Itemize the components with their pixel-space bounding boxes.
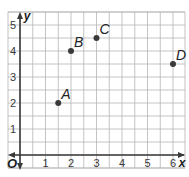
point-label-c: C bbox=[100, 21, 111, 37]
data-points: ABCD bbox=[55, 21, 186, 106]
x-tick-label: 6 bbox=[170, 157, 176, 169]
y-tick-label: 4 bbox=[10, 45, 16, 57]
x-tick-label: 4 bbox=[119, 157, 125, 169]
y-tick-label: 5 bbox=[10, 19, 16, 31]
origin-label: O bbox=[7, 156, 17, 171]
y-axis-arrow-icon bbox=[17, 12, 23, 19]
x-tick-label: 5 bbox=[144, 157, 150, 169]
coordinate-plane: 12345612345xyO ABCD bbox=[0, 0, 189, 177]
y-tick-label: 1 bbox=[10, 123, 16, 135]
x-tick-label: 1 bbox=[42, 157, 48, 169]
y-axis-arrow-down-icon bbox=[17, 163, 23, 170]
point-label-d: D bbox=[176, 47, 186, 63]
y-tick-label: 2 bbox=[10, 97, 16, 109]
point-label-b: B bbox=[74, 34, 83, 50]
y-axis-label: y bbox=[23, 9, 32, 23]
x-axis-label: x bbox=[178, 156, 187, 170]
x-tick-label: 2 bbox=[68, 157, 74, 169]
y-tick-label: 3 bbox=[10, 71, 16, 83]
x-tick-label: 3 bbox=[93, 157, 99, 169]
point-label-a: A bbox=[60, 86, 70, 102]
